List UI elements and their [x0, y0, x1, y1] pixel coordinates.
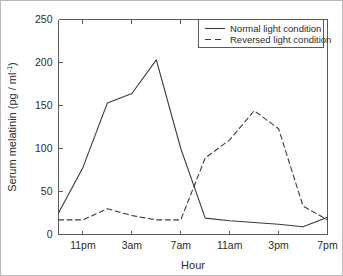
data-series-group	[59, 60, 328, 227]
legend-label-normal: Normal light condition	[230, 23, 321, 34]
svg-text:Serum melatinin (pg / ml-1): Serum melatinin (pg / ml-1)	[5, 62, 19, 192]
x-axis-title: Hour	[181, 259, 205, 271]
legend-label-reversed: Reversed light condition	[230, 34, 331, 45]
x-tick-label: 3am	[122, 239, 143, 251]
y-axis-title-superscript: -1	[5, 66, 14, 73]
line-chart: 050100150200250 11pm3am7am11am3pm7pm Hou…	[1, 1, 343, 276]
x-tick-label: 7am	[171, 239, 192, 251]
y-axis-title-main: Serum melatinin (pg / ml	[6, 73, 18, 192]
y-axis-title-tail: )	[6, 62, 18, 66]
y-tick-label: 0	[47, 228, 53, 240]
x-tick-label: 11am	[217, 239, 243, 251]
y-tick-label: 150	[35, 99, 53, 111]
legend: Normal light condition Reversed light co…	[199, 20, 332, 48]
series-line-solid	[59, 60, 328, 227]
y-axis-title: Serum melatinin (pg / ml-1)	[5, 62, 19, 192]
chart-figure: 050100150200250 11pm3am7am11am3pm7pm Hou…	[0, 0, 343, 276]
y-tick-label: 50	[41, 185, 53, 197]
x-tick-label: 7pm	[317, 239, 338, 251]
y-tick-label: 200	[35, 56, 53, 68]
x-tick-label: 11pm	[70, 239, 96, 251]
y-tick-label: 100	[35, 142, 53, 154]
x-tick-label: 3pm	[268, 239, 289, 251]
y-tick-label: 250	[35, 13, 53, 25]
